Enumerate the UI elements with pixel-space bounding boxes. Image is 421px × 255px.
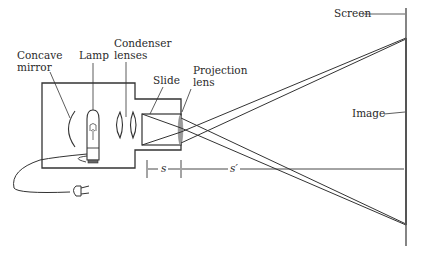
slide-label: Slide	[153, 74, 180, 86]
screen-label: Screen	[334, 7, 372, 19]
object-distance-label: s	[161, 162, 167, 174]
plug-icon	[74, 186, 90, 196]
image-label: Image	[352, 107, 385, 119]
light-rays	[142, 38, 406, 225]
concave-mirror-label-line1: Concave	[17, 49, 62, 61]
condenser-label-line2: lenses	[114, 49, 147, 61]
image-distance-label: s′	[230, 162, 238, 174]
concave-mirror-label-line2: mirror	[17, 61, 53, 73]
projection-lens	[178, 115, 183, 145]
condenser-label-line1: Condenser	[114, 37, 172, 49]
slide	[142, 114, 181, 145]
power-cord	[14, 154, 87, 193]
projector-diagram: s s′ Concave mirror Lamp Condenser lense…	[0, 0, 421, 255]
projection-label-line1: Projection	[193, 64, 248, 76]
lamp-label: Lamp	[79, 49, 109, 61]
lamp-bulb	[87, 110, 99, 163]
projector-housing	[42, 83, 181, 168]
projection-label-line2: lens	[193, 76, 215, 88]
